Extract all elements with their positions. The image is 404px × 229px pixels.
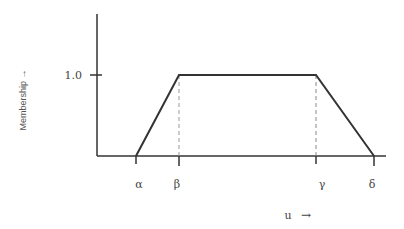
y-axis-label: Membership →: [18, 69, 28, 130]
x-label-alpha: α: [135, 178, 143, 191]
trapezoid-membership-diagram: 1.0 α β γ δ u → Membership →: [0, 0, 404, 229]
x-label-gamma: γ: [319, 178, 326, 191]
membership-curve: [136, 75, 374, 156]
x-axis-label: u: [284, 209, 291, 222]
x-label-beta: β: [174, 178, 180, 191]
x-axis-arrow: →: [301, 208, 311, 222]
x-label-delta: δ: [369, 178, 376, 191]
y-tick-label: 1.0: [65, 69, 83, 82]
